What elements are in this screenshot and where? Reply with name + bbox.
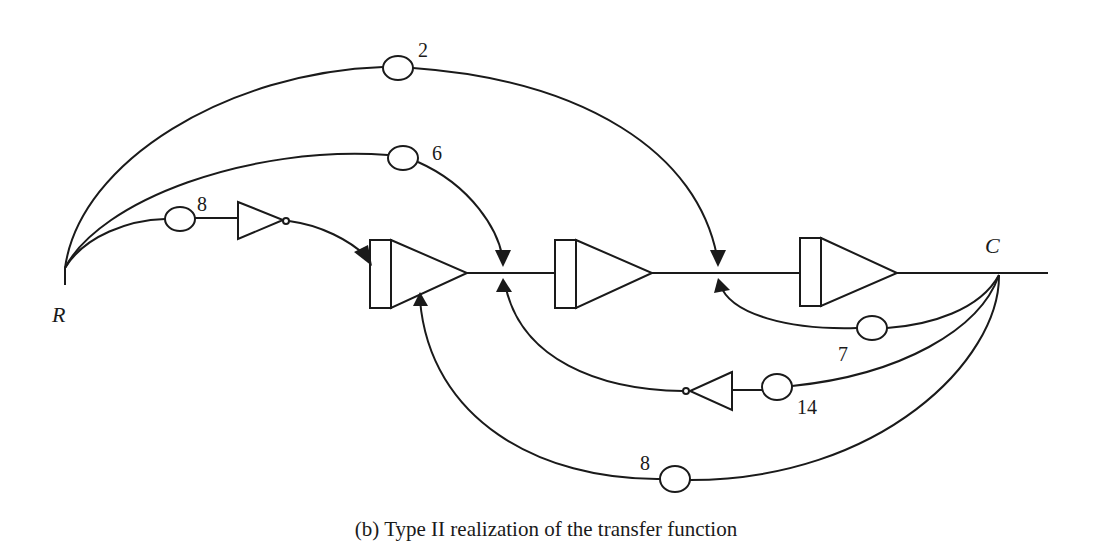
output-label: C: [985, 233, 1000, 258]
gain-node-2: [383, 56, 413, 80]
gain-node-7: [857, 316, 887, 340]
gain-label-6: 6: [432, 142, 442, 164]
inverter-forward: [238, 202, 289, 239]
type-ii-realization-diagram: 2 6 8 C 7 14: [0, 0, 1093, 550]
gain-label-14: 14: [797, 396, 817, 418]
gain-label-7: 7: [838, 343, 848, 365]
arrow-head-icon: [496, 278, 512, 292]
integrator-2: [555, 240, 652, 308]
gain-node-14: [762, 374, 792, 400]
inverter-feedback: [683, 372, 732, 410]
feedforward-middle: 6: [65, 142, 511, 268]
arrow-head-icon: [714, 278, 730, 293]
gain-node-8-feedback: [660, 466, 690, 492]
figure-caption: (b) Type II realization of the transfer …: [355, 517, 738, 541]
gain-label-2: 2: [418, 39, 428, 61]
input-label: R: [51, 302, 66, 327]
input-node: R: [51, 268, 66, 327]
gain-node-6: [388, 146, 418, 170]
integrator-3: [800, 238, 897, 306]
feedforward-inner: 8: [65, 193, 372, 268]
gain-node-8-forward: [165, 207, 195, 231]
output-node: C: [985, 233, 1000, 258]
arrow-head-icon: [495, 250, 511, 267]
gain-label-8-feedback: 8: [640, 452, 650, 474]
arrow-head-icon: [710, 250, 726, 267]
gain-label-8-forward: 8: [197, 193, 207, 215]
